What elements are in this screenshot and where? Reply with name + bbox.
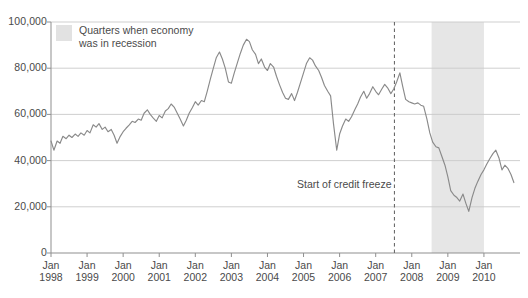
ytick-label-20000: 20,000 — [1, 201, 47, 212]
shaded-region-recession — [432, 22, 484, 253]
legend-label: Quarters when economy was in recession — [79, 24, 214, 49]
recession-band-swatch-icon — [56, 25, 72, 41]
xtick-label-2002: Jan2002 — [184, 259, 207, 283]
xtick-label-2006: Jan2006 — [328, 259, 351, 283]
xtick-label-2004: Jan2004 — [256, 259, 279, 283]
annotation-start-of-credit-freeze: Start of credit freeze — [297, 178, 392, 190]
xtick-label-1999: Jan1999 — [75, 259, 98, 283]
ytick-label-60000: 60,000 — [1, 108, 47, 119]
xtick-label-1998: Jan1998 — [39, 259, 62, 283]
xtick-label-2007: Jan2007 — [364, 259, 387, 283]
recession-shaded-region-group — [432, 22, 484, 253]
xtick-label-2003: Jan2003 — [220, 259, 243, 283]
chart-figure: 020,00040,00060,00080,000100,000 Jan1998… — [0, 0, 528, 298]
chart-legend: Quarters when economy was in recession — [56, 24, 214, 49]
ytick-label-40000: 40,000 — [1, 155, 47, 166]
xtick-label-2000: Jan2000 — [111, 259, 134, 283]
xtick-mark-group — [51, 253, 484, 257]
ytick-label-80000: 80,000 — [1, 62, 47, 73]
ytick-label-0: 0 — [1, 247, 47, 258]
xtick-label-2009: Jan2009 — [436, 259, 459, 283]
xtick-label-2001: Jan2001 — [148, 259, 171, 283]
xtick-label-2005: Jan2005 — [292, 259, 315, 283]
ytick-label-100000: 100,000 — [1, 16, 47, 27]
ytick-mark-group — [47, 22, 51, 253]
xtick-label-2010: Jan2010 — [472, 259, 495, 283]
xtick-label-2008: Jan2008 — [400, 259, 423, 283]
